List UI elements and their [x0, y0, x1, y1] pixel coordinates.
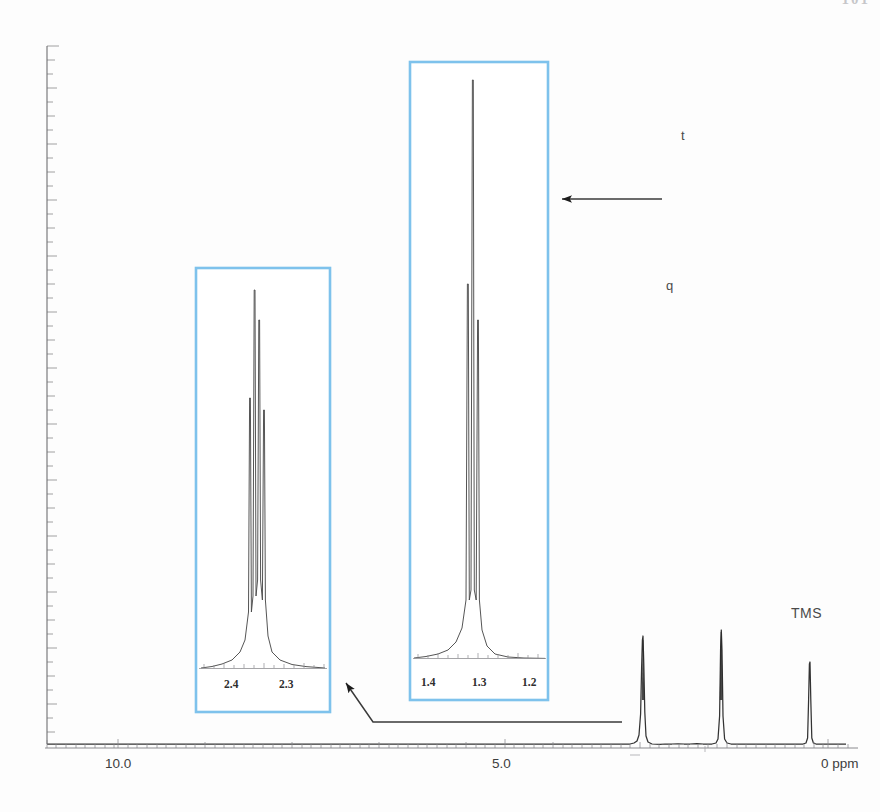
- inset-triplet-tick-1-4: 1.4: [421, 676, 435, 688]
- nmr-spectrum-plot: [0, 0, 880, 812]
- figure-page: 101: [0, 0, 880, 812]
- inset-quartet-tick-2-4: 2.4: [224, 678, 238, 690]
- inset-quartet: [196, 268, 330, 712]
- x-axis-tick-10: 10.0: [105, 756, 131, 771]
- x-axis-tick-5: 5.0: [492, 756, 511, 771]
- inset-triplet-tick-1-2: 1.2: [522, 676, 536, 688]
- inset-triplet-tick-1-3: 1.3: [472, 676, 486, 688]
- tms-peak-label: TMS: [791, 605, 822, 621]
- inset-triplet: [410, 62, 548, 700]
- triplet-peak-label: t: [681, 128, 685, 143]
- x-axis: [45, 739, 858, 755]
- y-axis: [47, 46, 59, 744]
- quartet-peak-label: q: [666, 278, 673, 293]
- x-axis-tick-0-ppm: 0 ppm: [821, 756, 859, 771]
- inset-quartet-tick-2-3: 2.3: [279, 678, 293, 690]
